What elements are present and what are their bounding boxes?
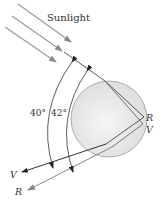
- red-exit-ray: [28, 147, 112, 190]
- violet-exit-ray: [22, 144, 106, 172]
- water-droplet: [71, 81, 147, 157]
- incident-ray: [64, 52, 105, 81]
- rainbow-diagram: Sunlight 40° 42° R V V R: [0, 0, 166, 200]
- angle-42-label: 42°: [51, 108, 67, 118]
- ray-v-label: V: [10, 169, 18, 180]
- ray-r-label: R: [14, 186, 22, 197]
- sunlight-label: Sunlight: [47, 12, 90, 23]
- angle-40-label: 40°: [30, 108, 46, 118]
- point-r-label: R: [145, 112, 153, 123]
- point-v-label: V: [146, 124, 154, 135]
